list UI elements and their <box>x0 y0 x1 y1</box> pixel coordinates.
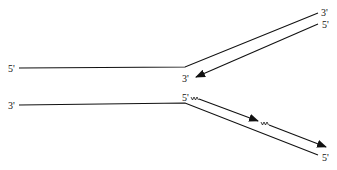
label-leading-3prime: 3' <box>182 73 189 84</box>
replication-fork-diagram: 5' 3' 5' 3' 3' 5' 5' <box>0 0 337 170</box>
label-leading-5prime: 5' <box>322 19 329 30</box>
top-parental-strand <box>19 13 318 68</box>
okazaki-fragment-2 <box>261 122 326 147</box>
label-lagging-5prime: 5' <box>182 92 189 103</box>
label-top-right-3prime: 3' <box>321 7 328 18</box>
label-bottom-left-3prime: 3' <box>8 100 15 111</box>
label-bottom-right-5prime: 5' <box>322 152 329 163</box>
bottom-parental-strand <box>19 103 318 155</box>
leading-strand-arrow <box>196 24 318 77</box>
label-top-left-5prime: 5' <box>8 63 15 74</box>
rna-primer-squiggle-icon <box>261 122 269 125</box>
rna-primer-squiggle-icon <box>191 97 199 100</box>
